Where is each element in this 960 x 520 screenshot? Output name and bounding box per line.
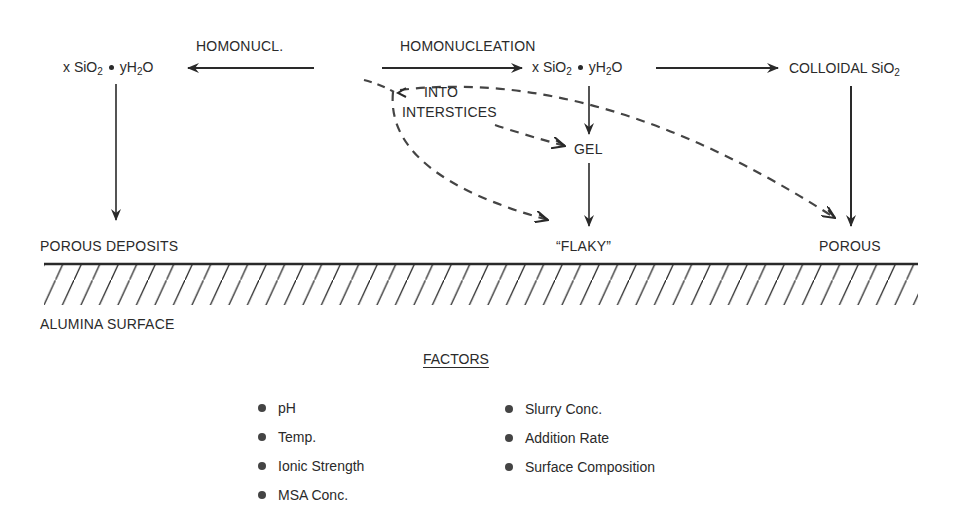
label-porous-deposits: POROUS DEPOSITS (40, 238, 178, 254)
label-homonucleation: HOMONUCLEATION (400, 38, 536, 54)
factor-label: MSA Conc. (278, 487, 348, 503)
factors-title: FACTORS (423, 351, 489, 367)
formula-subscript: 2 (566, 66, 572, 77)
bullet-icon (505, 405, 513, 413)
factor-label: Surface Composition (525, 459, 655, 475)
bullet-icon (505, 463, 513, 471)
label-homonucl: HOMONUCL. (196, 38, 283, 54)
dot-separator (578, 65, 583, 70)
bullet-icon (258, 433, 266, 441)
reaction-diagram (0, 0, 960, 520)
formula-subscript: 2 (97, 66, 103, 77)
bullet-icon (505, 434, 513, 442)
formula-silica-hydrate-left: x SiO2yH2O (63, 59, 153, 77)
dashed-arrow-to-gel (495, 125, 565, 146)
label-into: INTO (424, 84, 458, 100)
factor-item: Slurry Conc. (505, 399, 655, 428)
formula-part: x SiO (63, 59, 97, 75)
bullet-icon (258, 491, 266, 499)
factors-list-right: Slurry Conc. Addition Rate Surface Compo… (505, 399, 655, 486)
label-interstices: INTERSTICES (402, 104, 497, 120)
formula-silica-hydrate-mid: x SiO2yH2O (532, 59, 622, 77)
factor-item: pH (258, 398, 364, 427)
factor-item: Surface Composition (505, 457, 655, 486)
dot-separator (109, 65, 114, 70)
formula-part: O (142, 59, 153, 75)
formula-part: O (611, 59, 622, 75)
factor-label: Ionic Strength (278, 458, 364, 474)
label-alumina-surface: ALUMINA SURFACE (40, 316, 174, 332)
factor-item: Temp. (258, 427, 364, 456)
label-colloidal-silica: COLLOIDAL SiO2 (789, 60, 900, 78)
bullet-icon (258, 404, 266, 412)
label-porous: POROUS (819, 238, 881, 254)
factors-list-left: pH Temp. Ionic Strength MSA Conc. (258, 398, 364, 514)
factor-label: Addition Rate (525, 430, 609, 446)
factor-item: Addition Rate (505, 428, 655, 457)
factor-item: Ionic Strength (258, 456, 364, 485)
label-gel: GEL (574, 141, 603, 157)
dashed-arrow-into-interstices (364, 80, 394, 92)
alumina-surface-hatching (44, 265, 918, 305)
factor-item: MSA Conc. (258, 485, 364, 514)
into-arrowhead (398, 88, 406, 97)
formula-part: x SiO (532, 59, 566, 75)
formula-part: yH (120, 59, 137, 75)
formula-part: yH (589, 59, 606, 75)
label-flaky: “FLAKY” (556, 238, 611, 254)
bullet-icon (258, 462, 266, 470)
factor-label: Slurry Conc. (525, 401, 602, 417)
factor-label: pH (278, 400, 296, 416)
colloidal-text: COLLOIDAL SiO (789, 60, 894, 76)
formula-subscript: 2 (894, 67, 900, 78)
factor-label: Temp. (278, 429, 316, 445)
